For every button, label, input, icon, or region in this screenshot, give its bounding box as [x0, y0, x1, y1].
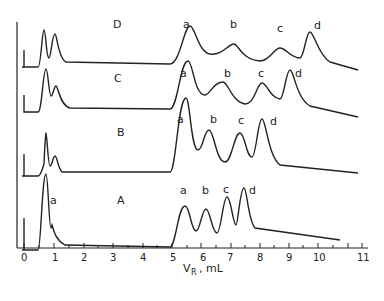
svg-text:a: a: [183, 18, 190, 31]
svg-text:2: 2: [81, 252, 87, 263]
svg-text:b: b: [210, 113, 217, 126]
x-axis-label: V R , mL: [183, 262, 224, 277]
svg-text:d: d: [295, 67, 302, 80]
trace-B: [22, 98, 358, 176]
trace-label-C: C: [114, 72, 122, 85]
svg-text:R: R: [191, 268, 197, 277]
svg-text:a: a: [180, 67, 187, 80]
svg-text:10: 10: [313, 252, 326, 263]
peak-labels-B: a b c d: [177, 113, 277, 128]
trace-label-A: A: [117, 194, 125, 207]
svg-text:d: d: [249, 184, 256, 197]
trace-label-B: B: [117, 126, 125, 139]
svg-text:5: 5: [170, 252, 176, 263]
svg-text:9: 9: [286, 252, 292, 263]
svg-text:c: c: [223, 183, 229, 196]
svg-text:c: c: [238, 114, 244, 127]
chromatogram-chart: 0 1 2 3 4 5 6 7 8 9 10 11 V R , mL D C B…: [0, 0, 384, 301]
trace-C: [24, 61, 358, 117]
svg-text:11: 11: [357, 252, 370, 263]
svg-text:c: c: [277, 22, 283, 35]
svg-text:d: d: [270, 115, 277, 128]
svg-text:0: 0: [21, 252, 27, 263]
svg-text:c: c: [258, 67, 264, 80]
svg-text:a: a: [177, 113, 184, 126]
svg-text:a: a: [180, 184, 187, 197]
svg-text:b: b: [202, 184, 209, 197]
svg-text:3: 3: [110, 252, 116, 263]
svg-text:8: 8: [257, 252, 263, 263]
trace-label-D: D: [113, 18, 121, 31]
svg-text:1: 1: [52, 252, 58, 263]
svg-text:, mL: , mL: [199, 262, 224, 275]
peak-labels-D: a b c d: [183, 18, 321, 35]
svg-text:a: a: [50, 194, 57, 207]
svg-text:b: b: [230, 18, 237, 31]
peak-labels-A: a a b c d: [50, 183, 256, 207]
svg-text:b: b: [224, 67, 231, 80]
svg-text:4: 4: [140, 252, 146, 263]
svg-text:d: d: [314, 19, 321, 32]
peak-labels-C: a b c d: [180, 67, 302, 80]
svg-text:V: V: [183, 262, 191, 275]
svg-text:7: 7: [227, 252, 233, 263]
x-tick-labels: 0 1 2 3 4 5 6 7 8 9 10 11: [21, 252, 370, 263]
